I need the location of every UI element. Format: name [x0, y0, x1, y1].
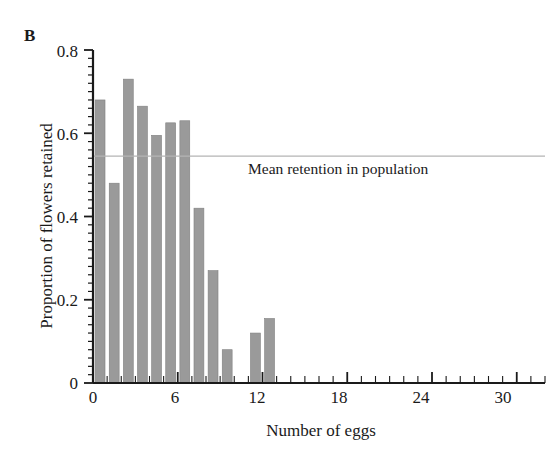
plot-area	[0, 0, 552, 455]
bar-7	[194, 208, 204, 383]
figure-panel-b: B Proportion of flowers retained Number …	[0, 0, 552, 455]
bar-11	[250, 333, 260, 383]
bar-12	[265, 318, 275, 383]
bar-1	[109, 183, 119, 383]
bar-series	[95, 79, 274, 383]
bar-8	[208, 271, 218, 383]
bar-0	[95, 100, 105, 383]
bar-5	[166, 123, 176, 383]
bar-9	[222, 350, 232, 383]
bar-3	[137, 106, 147, 383]
bar-4	[152, 135, 162, 383]
bar-6	[180, 121, 190, 383]
bar-2	[123, 79, 133, 383]
